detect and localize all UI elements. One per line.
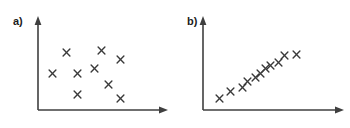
data-point-marker <box>48 69 57 78</box>
data-point-marker <box>73 69 82 78</box>
data-point-marker <box>116 94 125 103</box>
data-point-marker <box>73 90 82 99</box>
panel-a-plot-area <box>0 0 175 128</box>
data-point-marker <box>90 64 99 73</box>
data-point-marker <box>104 80 113 89</box>
data-point-marker <box>116 55 125 64</box>
panel-b: b) <box>175 0 350 128</box>
data-point-marker <box>97 46 106 55</box>
data-point-marker <box>280 51 289 60</box>
panel-b-plot-area <box>175 0 350 128</box>
data-point-marker <box>292 50 301 59</box>
panel-a: a) <box>0 0 175 128</box>
scatterplot-figure: a) b) <box>0 0 350 128</box>
data-point-marker <box>226 87 235 96</box>
data-point-marker <box>62 48 71 57</box>
data-point-marker <box>215 94 224 103</box>
